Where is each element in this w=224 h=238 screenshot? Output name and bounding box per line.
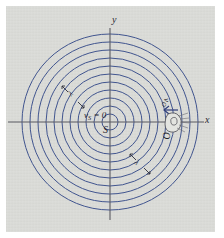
figure-panel: y x λ λ vS = 0 S vO O (6, 6, 215, 232)
source-velocity-subscript: S (88, 114, 91, 121)
figure-container: y x λ λ vS = 0 S vO O (0, 0, 224, 238)
source-velocity-value: = 0 (93, 110, 106, 120)
page-bottom-margin (0, 234, 224, 238)
wavefront-diagram (6, 6, 215, 232)
ear-listening-icon (165, 113, 189, 132)
observer-velocity-label: vO (161, 98, 172, 107)
x-axis-label: x (205, 114, 209, 125)
observer-velocity-subscript: O (161, 102, 168, 107)
source-name-label: S (103, 124, 108, 135)
observer-name-label: O (161, 132, 172, 139)
y-axis-label: y (112, 14, 116, 25)
source-velocity-label: vS = 0 (84, 110, 106, 121)
